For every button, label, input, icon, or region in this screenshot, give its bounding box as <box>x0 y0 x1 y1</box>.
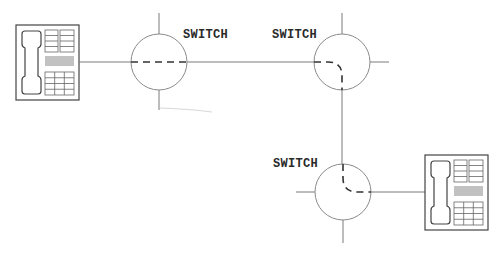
faint-artifact-line <box>160 108 212 112</box>
switch-3: SWITCH <box>273 157 371 243</box>
network-diagram: SWITCH SWITCH SWITCH <box>0 0 504 253</box>
telephone-left <box>16 25 79 100</box>
handset-icon <box>431 161 450 224</box>
switch-2-label: SWITCH <box>272 28 317 42</box>
switch-2: SWITCH <box>272 13 389 90</box>
handset-icon <box>22 31 41 94</box>
telephone-right <box>425 155 488 230</box>
switch-3-label: SWITCH <box>273 157 318 171</box>
switch-1-label: SWITCH <box>183 28 228 42</box>
